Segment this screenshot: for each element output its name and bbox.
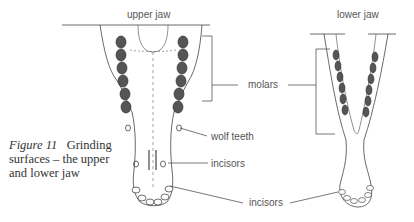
lower-jaw-label: lower jaw (337, 10, 379, 20)
incisors-lower-leader-left (170, 186, 243, 203)
lower-molars (333, 50, 378, 117)
lower-incisors (339, 186, 374, 204)
caption-line-3: and lower jaw (9, 166, 80, 180)
incisors-lower-label: incisors (249, 198, 283, 208)
wolf-teeth-leader (180, 128, 207, 136)
caption-line-1: Grinding (67, 138, 112, 152)
caption-line-2: surfaces – the upper (9, 152, 109, 166)
incisors-upper-label: incisors (211, 159, 245, 169)
upper-molars (116, 36, 188, 113)
incisors-lower-leader-right (290, 192, 338, 203)
molars-bracket-lower (316, 49, 335, 134)
jaw-diagram (0, 0, 414, 222)
figure-number: Figure 11 (9, 138, 57, 152)
molars-label: molars (248, 80, 278, 90)
molars-bracket-upper (202, 36, 212, 101)
upper-jaw-label: upper jaw (127, 10, 170, 20)
figure-caption: Figure 11 Grinding surfaces – the upper … (9, 138, 129, 180)
lower-jaw-outline (324, 34, 388, 207)
wolf-teeth-label: wolf teeth (211, 132, 254, 142)
